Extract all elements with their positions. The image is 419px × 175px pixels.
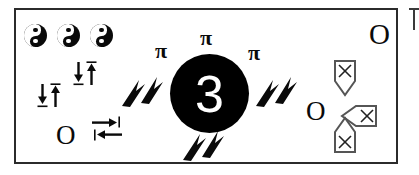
letter-o-bottom-left: O — [56, 122, 76, 149]
letter-o-top-right: O — [369, 20, 390, 49]
pi-symbol-top: π — [200, 27, 212, 49]
down-up-arrow-pair-icon-1 — [72, 60, 102, 88]
lightning-bolt-right — [255, 76, 299, 108]
diagram-canvas: O π π π 3 — [0, 0, 419, 175]
lightning-bolt-bottom — [182, 130, 226, 162]
center-disc: 3 — [170, 54, 249, 133]
x-marker-down-glyph — [332, 59, 358, 97]
pi-symbol-left: π — [155, 40, 167, 62]
lightning-bolt-glyph — [255, 76, 299, 108]
yin-yang-icon-2 — [57, 24, 80, 47]
letter-o-right-center: O — [306, 98, 326, 125]
down-up-arrow-pair-glyph — [36, 82, 66, 110]
yin-yang-icon-1 — [24, 24, 47, 47]
frame-edge-fragment-vertical — [413, 8, 415, 30]
x-marker-down — [332, 59, 358, 97]
yin-yang-dot-bottom — [33, 39, 37, 43]
yin-yang-dot-bottom — [66, 39, 70, 43]
yin-yang-dot-top — [66, 28, 70, 32]
yin-yang-dot-top — [33, 28, 37, 32]
down-up-arrow-pair-icon-2 — [36, 82, 66, 110]
x-marker-up — [332, 116, 358, 154]
diagram-panel: O π π π 3 — [14, 8, 398, 164]
center-disc-label: 3 — [195, 68, 224, 120]
lightning-bolt-glyph — [182, 130, 226, 162]
lightning-bolt-glyph — [121, 76, 165, 108]
pi-symbol-right: π — [248, 42, 260, 64]
down-up-arrow-pair-glyph — [72, 60, 102, 88]
lightning-bolt-left — [121, 76, 165, 108]
yin-yang-dot-bottom — [99, 39, 103, 43]
converge-arrows-glyph — [90, 115, 124, 143]
x-marker-up-glyph — [332, 116, 358, 154]
converge-arrows-icon — [90, 115, 124, 143]
yin-yang-icon-3 — [90, 24, 113, 47]
yin-yang-dot-top — [99, 28, 103, 32]
frame-edge-fragment-horizontal — [409, 8, 419, 10]
